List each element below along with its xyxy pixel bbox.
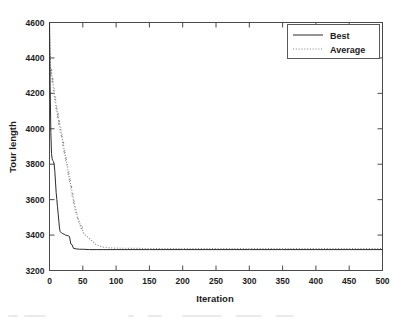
x-tick-label: 500 [375,276,389,286]
x-axis-tick-labels: 050100150200250300350400450500 [47,276,390,286]
legend: Best Average [288,25,380,59]
y-tick-label: 4400 [26,53,45,63]
legend-label-best: Best [330,31,350,41]
x-tick-label: 300 [242,276,256,286]
y-tick-label: 3600 [26,195,45,205]
x-tick-label: 250 [209,276,223,286]
plot-frame [50,23,383,271]
y-tick-label: 4600 [26,18,45,28]
axis-tick-marks [50,23,383,271]
convergence-line-chart: 32003400360038004000420044004600 0501001… [0,0,397,322]
y-axis-tick-labels: 32003400360038004000420044004600 [26,18,45,276]
y-tick-label: 3800 [26,159,45,169]
x-axis-title: Iteration [196,293,234,304]
y-axis-title: Tour length [7,121,18,173]
x-tick-label: 400 [309,276,323,286]
y-tick-label: 3400 [26,230,45,240]
x-tick-label: 150 [142,276,156,286]
legend-label-average: Average [330,45,365,55]
page-caption-artifact [0,306,397,322]
y-tick-label: 3200 [26,266,45,276]
x-tick-label: 350 [276,276,290,286]
x-tick-label: 450 [342,276,356,286]
x-tick-label: 0 [47,276,52,286]
x-tick-label: 100 [109,276,123,286]
y-tick-label: 4000 [26,124,45,134]
x-tick-label: 50 [78,276,88,286]
figure-container: 32003400360038004000420044004600 0501001… [0,0,397,322]
y-tick-label: 4200 [26,88,45,98]
x-tick-label: 200 [176,276,190,286]
